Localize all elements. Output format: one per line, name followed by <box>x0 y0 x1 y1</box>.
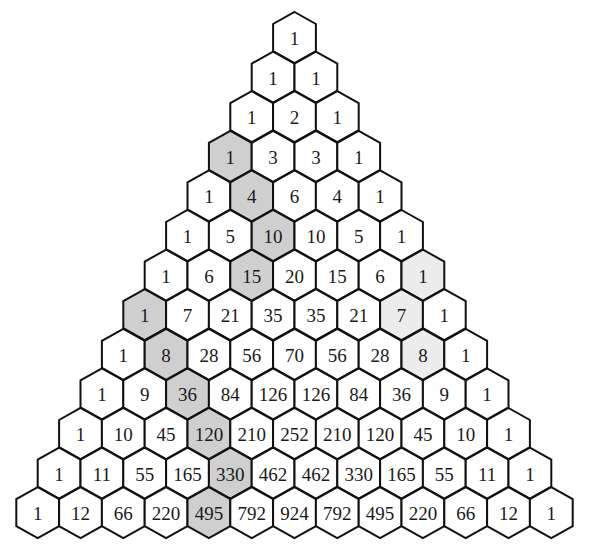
cell-value: 924 <box>280 503 309 524</box>
cell-value: 165 <box>173 464 202 485</box>
cell-value: 8 <box>418 345 428 366</box>
cell-value: 8 <box>161 345 171 366</box>
cell-value: 10 <box>264 226 283 247</box>
cell-value: 1 <box>440 305 450 326</box>
cell-value: 120 <box>366 424 395 445</box>
cell-value: 220 <box>409 503 438 524</box>
cell-value: 1 <box>268 68 278 89</box>
cell-value: 1 <box>333 107 343 128</box>
hex-cell: 220 <box>145 487 188 538</box>
cell-value: 220 <box>152 503 181 524</box>
hex-cell: 1 <box>530 487 573 538</box>
hex-cell: 924 <box>273 487 316 538</box>
cell-value: 4 <box>247 186 257 207</box>
cell-value: 35 <box>306 305 325 326</box>
cell-value: 1 <box>226 147 236 168</box>
cell-value: 165 <box>387 464 416 485</box>
cell-value: 1 <box>311 68 321 89</box>
cell-value: 1 <box>140 305 150 326</box>
cell-value: 1 <box>547 503 557 524</box>
cell-value: 2 <box>290 107 300 128</box>
cell-value: 462 <box>259 464 288 485</box>
cell-value: 55 <box>135 464 154 485</box>
cell-value: 1 <box>54 464 64 485</box>
cell-value: 45 <box>157 424 176 445</box>
cell-value: 462 <box>302 464 331 485</box>
cell-value: 28 <box>199 345 218 366</box>
cell-value: 45 <box>413 424 432 445</box>
cell-value: 5 <box>226 226 236 247</box>
cell-value: 5 <box>354 226 364 247</box>
cell-value: 36 <box>392 384 411 405</box>
cell-value: 10 <box>114 424 133 445</box>
cell-value: 1 <box>375 186 385 207</box>
cell-value: 1 <box>525 464 535 485</box>
cell-value: 20 <box>285 266 304 287</box>
cell-value: 495 <box>195 503 224 524</box>
cell-value: 1 <box>204 186 214 207</box>
cell-value: 21 <box>349 305 368 326</box>
cell-value: 1 <box>290 28 300 49</box>
cell-value: 15 <box>328 266 347 287</box>
cell-value: 6 <box>375 266 385 287</box>
pascal-triangle-diagram: 1111211331146411510105116152015611721353… <box>0 0 594 560</box>
hex-cell: 495 <box>188 487 231 538</box>
cell-value: 56 <box>242 345 261 366</box>
cell-value: 1 <box>397 226 407 247</box>
cell-value: 1 <box>504 424 514 445</box>
hex-cell: 12 <box>59 487 102 538</box>
hex-cell: 220 <box>402 487 445 538</box>
cell-value: 1 <box>482 384 492 405</box>
cell-value: 6 <box>204 266 214 287</box>
cell-value: 1 <box>161 266 171 287</box>
cell-value: 1 <box>97 384 107 405</box>
cell-value: 126 <box>259 384 288 405</box>
cell-value: 1 <box>461 345 471 366</box>
cell-value: 66 <box>114 503 133 524</box>
cell-value: 330 <box>344 464 373 485</box>
cell-value: 12 <box>71 503 90 524</box>
cell-value: 126 <box>302 384 331 405</box>
hex-cell: 1 <box>16 487 59 538</box>
cell-value: 66 <box>456 503 475 524</box>
cell-value: 210 <box>323 424 352 445</box>
cell-value: 10 <box>456 424 475 445</box>
cell-value: 7 <box>397 305 407 326</box>
cell-value: 3 <box>268 147 278 168</box>
cell-value: 792 <box>237 503 266 524</box>
cell-value: 9 <box>140 384 150 405</box>
cell-value: 70 <box>285 345 304 366</box>
cell-value: 15 <box>242 266 261 287</box>
cell-value: 1 <box>247 107 257 128</box>
cell-value: 10 <box>306 226 325 247</box>
cell-value: 9 <box>440 384 450 405</box>
cell-value: 35 <box>264 305 283 326</box>
cell-value: 252 <box>280 424 309 445</box>
cell-value: 84 <box>349 384 369 405</box>
cell-value: 11 <box>478 464 496 485</box>
cell-value: 7 <box>183 305 193 326</box>
cell-value: 56 <box>328 345 347 366</box>
cell-value: 1 <box>76 424 86 445</box>
cell-value: 11 <box>93 464 111 485</box>
cell-value: 3 <box>311 147 321 168</box>
cell-value: 1 <box>119 345 129 366</box>
cell-value: 21 <box>221 305 240 326</box>
cell-value: 84 <box>221 384 241 405</box>
cell-value: 1 <box>33 503 43 524</box>
cell-value: 1 <box>418 266 428 287</box>
hex-cell: 66 <box>102 487 145 538</box>
hex-cell: 66 <box>444 487 487 538</box>
cell-value: 495 <box>366 503 395 524</box>
cell-value: 330 <box>216 464 245 485</box>
cell-value: 210 <box>237 424 266 445</box>
cell-value: 4 <box>333 186 343 207</box>
hex-cells: 1111211331146411510105116152015611721353… <box>16 12 572 538</box>
hex-cell: 792 <box>316 487 359 538</box>
hex-cell: 495 <box>359 487 402 538</box>
cell-value: 120 <box>195 424 224 445</box>
cell-value: 6 <box>290 186 300 207</box>
cell-value: 55 <box>435 464 454 485</box>
cell-value: 28 <box>371 345 390 366</box>
cell-value: 36 <box>178 384 197 405</box>
